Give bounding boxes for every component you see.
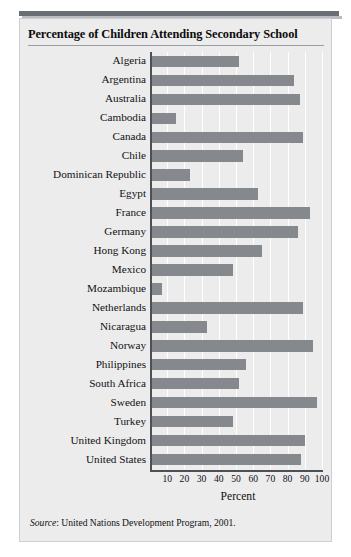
- category-label: Netherlands: [6, 301, 146, 313]
- category-label: Canada: [6, 130, 146, 142]
- source-label: Source: [30, 517, 56, 528]
- bar: [150, 113, 176, 125]
- category-label: Australia: [6, 92, 146, 104]
- plot-area: [150, 52, 322, 469]
- bar-row: [150, 223, 322, 242]
- bar-row: [150, 166, 322, 185]
- bar-row: [150, 109, 322, 128]
- x-tick-20: 20: [180, 473, 190, 484]
- category-label: Nicaragua: [6, 320, 146, 332]
- bar: [150, 321, 207, 333]
- bar-row: [150, 52, 322, 71]
- bar-row: [150, 431, 322, 450]
- source-note: Source: United Nations Development Progr…: [30, 517, 236, 528]
- gridline-100: [322, 52, 323, 469]
- bar-row: [150, 204, 322, 223]
- bar: [150, 56, 239, 68]
- category-label: United States: [6, 453, 146, 465]
- category-label: Cambodia: [6, 111, 146, 123]
- bar: [150, 132, 303, 144]
- x-tick-50: 50: [231, 473, 241, 484]
- x-tick-10: 10: [162, 473, 172, 484]
- x-tick-80: 80: [283, 473, 293, 484]
- category-label: United Kingdom: [6, 434, 146, 446]
- bar-row: [150, 450, 322, 469]
- category-label: Sweden: [6, 396, 146, 408]
- bar-row: [150, 374, 322, 393]
- bar-row: [150, 412, 322, 431]
- bar: [150, 340, 313, 352]
- bar-row: [150, 90, 322, 109]
- top-accent-rule: [19, 11, 339, 16]
- category-axis-labels: AlgeriaArgentinaAustraliaCambodiaCanadaC…: [4, 52, 146, 469]
- chart-title: Percentage of Children Attending Seconda…: [28, 27, 328, 42]
- category-label: Dominican Republic: [6, 168, 146, 180]
- bar: [150, 359, 246, 371]
- x-tick-100: 100: [315, 473, 329, 484]
- bar: [150, 264, 233, 276]
- bar: [150, 188, 258, 200]
- bar: [150, 435, 305, 447]
- source-text: : United Nations Development Program, 20…: [56, 517, 235, 528]
- category-label: Germany: [6, 225, 146, 237]
- bar: [150, 94, 300, 106]
- category-label: Turkey: [6, 415, 146, 427]
- bar-row: [150, 336, 322, 355]
- bar: [150, 207, 310, 219]
- category-label: Mexico: [6, 263, 146, 275]
- bar-row: [150, 261, 322, 280]
- bar: [150, 378, 239, 390]
- category-label: Philippines: [6, 358, 146, 370]
- bar: [150, 454, 301, 466]
- x-tick-30: 30: [197, 473, 207, 484]
- bar-row: [150, 393, 322, 412]
- category-label: Egypt: [6, 187, 146, 199]
- x-tick-90: 90: [300, 473, 310, 484]
- x-tick-40: 40: [214, 473, 224, 484]
- title-divider: [28, 45, 324, 46]
- bar: [150, 75, 294, 87]
- x-tick-60: 60: [248, 473, 258, 484]
- y-axis-line: [150, 52, 152, 470]
- bar-row: [150, 355, 322, 374]
- x-axis-title: Percent: [150, 490, 326, 503]
- bar: [150, 169, 190, 181]
- bar-row: [150, 279, 322, 298]
- bar: [150, 226, 298, 238]
- category-label: Argentina: [6, 73, 146, 85]
- bar-row: [150, 71, 322, 90]
- bar: [150, 302, 303, 314]
- bar: [150, 416, 233, 428]
- category-label: Algeria: [6, 54, 146, 66]
- category-label: France: [6, 206, 146, 218]
- category-label: Chile: [6, 149, 146, 161]
- x-axis-line: [150, 470, 323, 472]
- bar: [150, 245, 262, 257]
- category-label: Norway: [6, 339, 146, 351]
- bar: [150, 283, 162, 295]
- bar-row: [150, 128, 322, 147]
- bar-row: [150, 298, 322, 317]
- bar: [150, 150, 243, 162]
- bar: [150, 397, 317, 409]
- bar-row: [150, 242, 322, 261]
- category-label: South Africa: [6, 377, 146, 389]
- x-axis-tick-labels: 102030405060708090100: [150, 473, 326, 487]
- bar-row: [150, 147, 322, 166]
- bar-row: [150, 317, 322, 336]
- category-label: Mozambique: [6, 282, 146, 294]
- category-label: Hong Kong: [6, 244, 146, 256]
- x-tick-70: 70: [266, 473, 276, 484]
- chart-figure: Percentage of Children Attending Seconda…: [0, 0, 351, 557]
- bar-row: [150, 185, 322, 204]
